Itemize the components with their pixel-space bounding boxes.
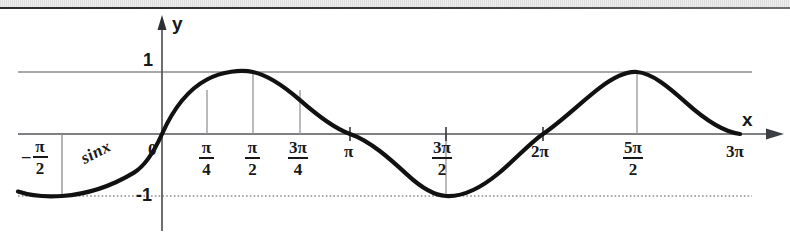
x-tick-label-5pi-over-2: 5π 2 xyxy=(623,139,643,178)
fraction-numerator: 5π xyxy=(623,139,643,157)
x-axis-label: x xyxy=(742,110,753,129)
fraction-numerator: π xyxy=(34,138,45,156)
y-tick-label-minus-1: -1 xyxy=(136,186,152,204)
minus-sign: – xyxy=(22,148,31,167)
x-tick-label-pi-over-2: π 2 xyxy=(245,139,260,178)
fraction-stack: π 2 xyxy=(33,138,48,177)
x-tick-label-minus-pi-over-2: – π 2 xyxy=(22,138,48,177)
fraction-denominator: 2 xyxy=(248,159,257,178)
y-tick-label-1: 1 xyxy=(143,51,153,69)
x-tick-label-zero: 0 xyxy=(148,140,157,160)
fraction-denominator: 4 xyxy=(202,159,211,178)
x-tick-label-3pi-over-4: 3π 4 xyxy=(288,139,308,178)
y-axis-label: y xyxy=(172,14,183,33)
fraction-numerator: π xyxy=(201,139,212,157)
y-axis-arrowhead xyxy=(158,15,167,30)
x-axis-arrowhead xyxy=(766,129,784,140)
fraction-numerator: π xyxy=(247,139,258,157)
x-tick-label-2pi: 2π xyxy=(531,142,549,162)
fraction-denominator: 2 xyxy=(36,158,45,177)
fraction-numerator: 3π xyxy=(432,139,452,157)
x-tick-label-pi: π xyxy=(344,142,353,162)
x-tick-label-3pi: 3π xyxy=(726,142,744,162)
fraction-numerator: 3π xyxy=(288,139,308,157)
x-tick-label-3pi-over-2: 3π 2 xyxy=(432,139,452,178)
plot-canvas xyxy=(0,0,790,237)
fraction-denominator: 4 xyxy=(294,159,303,178)
x-tick-label-pi-over-4: π 4 xyxy=(199,139,214,178)
fraction-denominator: 2 xyxy=(629,159,638,178)
fraction-denominator: 2 xyxy=(438,159,447,178)
sine-graph-figure: y x 1 -1 sinx – π 2 0 π 4 π 2 3π 4 π 3π xyxy=(0,0,790,237)
